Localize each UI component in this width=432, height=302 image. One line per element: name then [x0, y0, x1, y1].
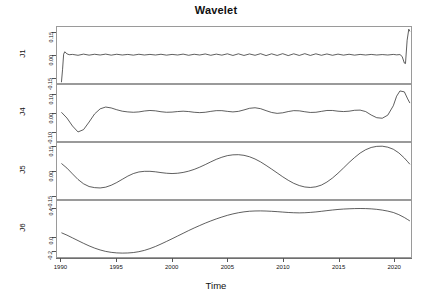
panel-plot-j5	[57, 143, 411, 199]
y-tick: 0.15	[28, 28, 50, 36]
panel-j4	[56, 84, 412, 142]
x-tick-label: 2010	[268, 264, 298, 270]
series-line-j5	[61, 146, 409, 188]
x-tick-label: 1995	[101, 264, 131, 270]
panel-plot-j6	[57, 201, 411, 257]
y-tick: 0.0	[28, 233, 50, 241]
y-tick-label: 0.15	[47, 146, 53, 157]
x-axis-title: Time	[0, 280, 432, 291]
x-tick-mark	[227, 258, 228, 262]
y-tick: 0.4	[28, 204, 50, 212]
panel-label-j4: J4	[18, 104, 27, 120]
y-tick-label: 0.00	[47, 171, 53, 182]
x-tick-mark	[283, 258, 284, 262]
y-tick: -0.15	[28, 74, 50, 82]
y-tick-label: 0.10	[47, 94, 53, 105]
panel-plot-j4	[57, 85, 411, 141]
y-tick: 0.00	[28, 167, 50, 175]
y-tick: -0.15	[28, 192, 50, 200]
x-tick-label: 2015	[324, 264, 354, 270]
panel-label-j6: J6	[18, 220, 27, 236]
chart-title: Wavelet	[0, 4, 432, 16]
y-tick-label: -0.15	[47, 78, 53, 90]
panel-label-j1: J1	[18, 46, 27, 62]
series-line-j1	[61, 29, 409, 82]
x-tick-label: 1990	[45, 264, 75, 270]
series-line-j4	[61, 91, 409, 132]
y-tick-label: 0.4	[47, 208, 53, 216]
x-tick-mark	[116, 258, 117, 262]
x-tick-label: 2000	[157, 264, 187, 270]
y-tick: 0.00	[28, 109, 50, 117]
y-tick-label: 0.0	[47, 237, 53, 245]
y-tick: 0.10	[28, 90, 50, 98]
panel-j5	[56, 142, 412, 200]
y-tick-label: 0.15	[47, 32, 53, 43]
panel-j6	[56, 200, 412, 258]
chart-root: Wavelet 0.150.00-0.150.100.00-0.100.150.…	[0, 0, 432, 302]
x-tick-mark	[172, 258, 173, 262]
x-tick-mark	[339, 258, 340, 262]
panel-plot-j1	[57, 27, 411, 83]
x-tick-label: 2005	[212, 264, 242, 270]
panel-label-j5: J5	[18, 162, 27, 178]
series-line-j6	[61, 209, 409, 254]
y-tick: -0.2	[28, 247, 50, 255]
y-tick: 0.00	[28, 51, 50, 59]
y-tick-label: 0.00	[47, 113, 53, 124]
plot-panels-container	[56, 26, 412, 258]
y-tick: 0.15	[28, 142, 50, 150]
y-tick-label: 0.00	[47, 55, 53, 66]
x-axis-line	[56, 258, 412, 259]
x-tick-mark	[394, 258, 395, 262]
x-tick-label: 2020	[379, 264, 409, 270]
panel-j1	[56, 26, 412, 84]
y-tick: -0.10	[28, 128, 50, 136]
y-tick-label: -0.2	[47, 251, 53, 260]
x-tick-mark	[60, 258, 61, 262]
